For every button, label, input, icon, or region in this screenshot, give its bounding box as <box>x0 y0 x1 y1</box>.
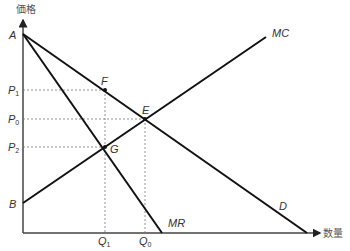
label-d: D <box>279 200 287 212</box>
label-e: E <box>142 104 150 116</box>
label-p1: P1 <box>8 84 19 97</box>
label-p2: P2 <box>8 141 19 154</box>
label-b: B <box>9 198 16 210</box>
demand-curve <box>23 34 307 233</box>
point-g-dot <box>103 145 107 149</box>
monopoly-diagram: 価格 数量 A B F E G MC MR D P1 P0 P2 Q1 Q0 <box>0 0 350 251</box>
y-axis-label: 価格 <box>16 3 36 15</box>
label-q1: Q1 <box>98 235 111 248</box>
label-q0: Q0 <box>139 235 152 248</box>
label-mc: MC <box>272 27 289 39</box>
label-g: G <box>110 143 119 155</box>
point-e-dot <box>143 117 147 121</box>
x-axis-label: 数量 <box>323 227 343 239</box>
point-f-dot <box>103 88 107 92</box>
label-f: F <box>101 75 109 87</box>
label-mr: MR <box>168 217 185 229</box>
label-a: A <box>8 29 16 41</box>
mr-curve <box>23 34 162 233</box>
label-p0: P0 <box>8 113 19 126</box>
